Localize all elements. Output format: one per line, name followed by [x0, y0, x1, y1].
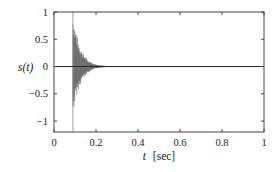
x-tick-label: 0.2	[89, 137, 102, 148]
x-tick-label: 0.4	[131, 137, 145, 148]
signal-trace	[73, 12, 117, 132]
x-tick-label: 0.8	[215, 137, 228, 148]
x-tick-label: 0	[51, 137, 56, 148]
x-tick-label: 1	[261, 137, 266, 148]
x-axis-variable: t	[143, 150, 147, 162]
x-axis-label: t [sec]	[143, 150, 175, 162]
y-tick-label: 0	[43, 61, 48, 72]
y-tick-label: 1	[43, 7, 48, 18]
x-axis-ticks: 00.20.40.60.81	[51, 12, 266, 148]
y-tick-label: −0.5	[29, 88, 48, 99]
signal-plot: 00.20.40.60.81 10.50−0.5−1 s(t) t [sec]	[0, 0, 279, 172]
y-axis-label: s(t)	[18, 61, 34, 74]
x-axis-unit: [sec]	[153, 150, 175, 162]
y-tick-label: −1	[37, 116, 48, 127]
y-tick-label: 0.5	[35, 34, 48, 45]
x-tick-label: 0.6	[173, 137, 186, 148]
